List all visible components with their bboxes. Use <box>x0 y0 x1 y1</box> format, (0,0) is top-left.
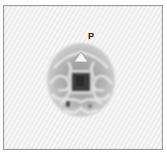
pollen-grain <box>44 38 118 118</box>
micrograph-frame: P <box>3 5 163 150</box>
figure-label: P <box>88 32 94 41</box>
